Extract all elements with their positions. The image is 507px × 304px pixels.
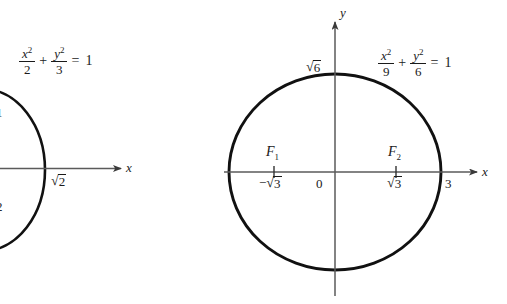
left-equation-term-1: x2 2: [19, 46, 35, 76]
left-equation-right-hand-side: 1: [85, 54, 92, 68]
figure-canvas: x2 2 + y2 3 = 1 1 2 √2 x x2 9 + y2 6: [0, 0, 507, 304]
radicand: 3: [394, 176, 403, 191]
right-term1-numerator: x2: [378, 48, 394, 63]
right-y-axis-label: y: [340, 6, 346, 19]
radicand: 2: [58, 174, 67, 189]
radicand: 3: [273, 176, 282, 191]
right-term2-numerator: y2: [410, 48, 426, 63]
left-equation-plus-operator: +: [39, 54, 47, 68]
left-term1-numerator: x2: [19, 46, 35, 61]
right-equation-right-hand-side: 1: [444, 56, 451, 70]
right-term1-denominator: 9: [380, 64, 393, 78]
left-equation-term-2: y2 3: [51, 46, 67, 76]
focus-2-value-label: √3: [387, 176, 402, 191]
focus-1-label: F1: [266, 145, 279, 162]
right-x-axis-label: x: [482, 165, 488, 178]
left-term1-denominator: 2: [21, 62, 34, 76]
left-partial-label-bottom: 2: [0, 200, 3, 213]
origin-label: 0: [316, 177, 323, 190]
left-x-intercept-label: √2: [51, 174, 66, 189]
left-partial-label-top: 1: [0, 106, 3, 119]
right-equation-term-1: x2 9: [378, 48, 394, 78]
right-equation: x2 9 + y2 6 = 1: [377, 48, 451, 78]
focus-1-value-label: −√3: [259, 176, 282, 191]
right-equation-term-2: y2 6: [410, 48, 426, 78]
left-x-axis-label: x: [126, 161, 132, 174]
right-top-vertex-label: √6: [306, 60, 321, 75]
left-equation-equals-sign: =: [71, 54, 79, 68]
right-equation-plus-operator: +: [398, 56, 406, 70]
minus-sign: −: [259, 176, 266, 190]
left-diagram-group: [0, 89, 121, 251]
right-term2-denominator: 6: [412, 64, 425, 78]
left-term2-numerator: y2: [51, 46, 67, 61]
left-term2-denominator: 3: [53, 62, 66, 76]
left-equation: x2 2 + y2 3 = 1: [18, 46, 92, 76]
left-ellipse-curve: [0, 89, 45, 251]
focus-2-label: F2: [388, 145, 401, 162]
right-vertex-label: 3: [445, 177, 452, 190]
radicand: 6: [313, 60, 322, 75]
right-equation-equals-sign: =: [430, 56, 438, 70]
